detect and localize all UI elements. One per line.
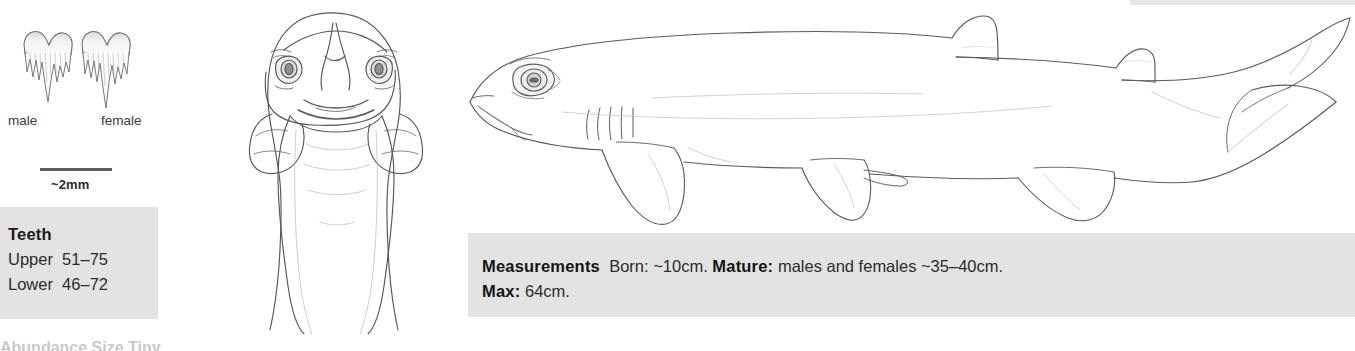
measurements-max-value: 64cm.: [525, 282, 570, 300]
measurements-born: Born: ~10cm.: [609, 257, 708, 275]
tooth-female-icon: [82, 32, 130, 109]
measurements-title: Measurements: [482, 257, 600, 275]
measurements-mature-label: Mature:: [712, 257, 773, 275]
scale-bar-icon: [40, 168, 112, 171]
teeth-box-title: Teeth: [8, 222, 152, 247]
teeth-upper-row: Upper 51–75: [8, 247, 152, 272]
scale-bar: ~2mm: [40, 168, 160, 200]
measurements-line-1: Measurements Born: ~10cm. Mature: males …: [482, 254, 1345, 279]
measurements-line-2: Max: 64cm.: [482, 279, 1345, 304]
tooth-male-label: male: [8, 113, 37, 128]
measurements-mature-value: males and females ~35–40cm.: [778, 257, 1003, 275]
measurements-info-box: Measurements Born: ~10cm. Mature: males …: [468, 233, 1355, 317]
shark-head-front-view-illustration: [212, 4, 460, 334]
tooth-female-label: female: [101, 113, 142, 128]
teeth-info-box: Teeth Upper 51–75 Lower 46–72: [0, 207, 158, 319]
tooth-male-icon: [24, 32, 72, 103]
shark-lateral-view-illustration: [452, 2, 1355, 232]
measurements-max-label: Max:: [482, 282, 520, 300]
scale-bar-label: ~2mm: [51, 177, 89, 192]
teeth-lower-row: Lower 46–72: [8, 272, 152, 297]
tooth-sex-labels: male female: [0, 113, 170, 131]
tooth-pair-illustration: [18, 22, 148, 110]
figure-plate: male female ~2mm Teeth Upper 51–75 Lower…: [0, 0, 1355, 351]
page-bottom-cutoff-text: Abundance Size Tiny: [0, 338, 300, 351]
